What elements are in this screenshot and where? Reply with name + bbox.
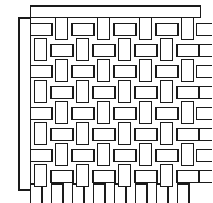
weft-over segment [156, 150, 178, 162]
weft-over segment [114, 108, 136, 120]
weft-over segment [156, 66, 178, 78]
warp-over segment [182, 18, 194, 40]
warp-over segment [140, 60, 152, 82]
weft-over segment [177, 129, 199, 141]
right-loose-thread [197, 150, 213, 162]
warp-over segment [119, 165, 131, 187]
bottom-loose-thread [136, 184, 148, 203]
warp-over segment [35, 123, 47, 145]
weft-over segment [72, 108, 94, 120]
weft-over segment [114, 150, 136, 162]
right-loose-thread [197, 108, 213, 120]
left-selvage-bar [19, 18, 31, 190]
warp-over segment [182, 60, 194, 82]
weft-over segment [93, 45, 115, 57]
weft-over segment [177, 87, 199, 99]
warp-over segment [182, 102, 194, 124]
warp-over segment [77, 123, 89, 145]
weft-over segment [51, 45, 73, 57]
right-loose-thread [197, 66, 213, 78]
warp-over segment [119, 81, 131, 103]
weave-canvas [0, 0, 212, 203]
weft-over segment [93, 87, 115, 99]
weft-over segment [156, 108, 178, 120]
warp-over segment [140, 18, 152, 40]
weft-over segment [114, 24, 136, 36]
warp-over segment [77, 81, 89, 103]
bottom-loose-thread [178, 184, 190, 203]
top-selvage-bar [31, 6, 201, 18]
weft-over segment [135, 171, 157, 183]
weft-over segment [51, 171, 73, 183]
warp-over segment [56, 60, 68, 82]
weft-over segment [93, 129, 115, 141]
warp-over segment [98, 102, 110, 124]
weave-diagram-figure [0, 0, 212, 203]
warp-over segment [98, 144, 110, 166]
warp-over segment [140, 102, 152, 124]
weft-over segment [51, 129, 73, 141]
warp-over segment [35, 39, 47, 61]
warp-over segment [35, 81, 47, 103]
bottom-loose-thread [94, 184, 106, 203]
warp-over segment [98, 18, 110, 40]
weft-over segment [30, 108, 52, 120]
warp-over segment [119, 123, 131, 145]
weft-over segment [30, 24, 52, 36]
warp-over segment [56, 144, 68, 166]
weft-over segment [177, 171, 199, 183]
warp-over segment [77, 39, 89, 61]
warp-over segment [161, 123, 173, 145]
warp-over segment [35, 165, 47, 187]
warp-over segment [161, 39, 173, 61]
weft-over segment [156, 24, 178, 36]
weft-over segment [114, 66, 136, 78]
weft-over segment [72, 66, 94, 78]
weft-over segment [72, 24, 94, 36]
weft-over segment [51, 87, 73, 99]
warp-over segment [119, 39, 131, 61]
weft-over segment [30, 150, 52, 162]
warp-over segment [98, 60, 110, 82]
bottom-loose-thread [52, 184, 64, 203]
warp-over segment [161, 165, 173, 187]
weft-over segment [177, 45, 199, 57]
right-loose-thread [197, 24, 213, 36]
warp-over segment [77, 165, 89, 187]
weft-over segment [93, 171, 115, 183]
warp-over segment [182, 144, 194, 166]
warp-over segment [140, 144, 152, 166]
weft-over segment [72, 150, 94, 162]
weft-over segment [135, 45, 157, 57]
weft-over segment [30, 66, 52, 78]
warp-over segment [56, 18, 68, 40]
warp-over segment [161, 81, 173, 103]
weft-over segment [135, 87, 157, 99]
weft-over segment [135, 129, 157, 141]
warp-over segment [56, 102, 68, 124]
